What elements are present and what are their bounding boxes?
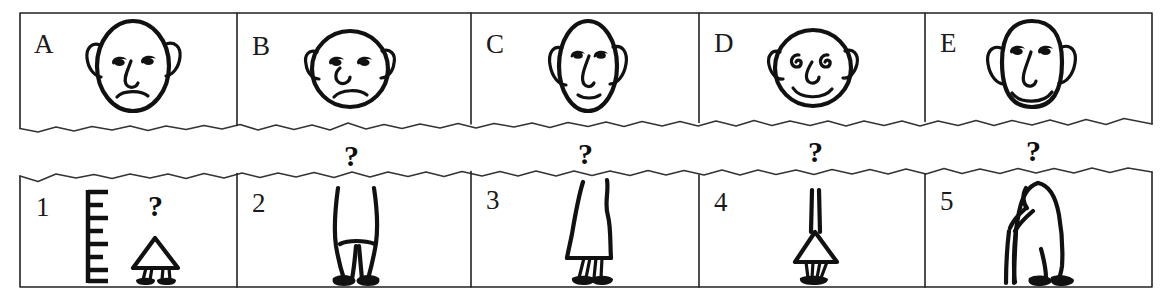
bodies-row-frame (20, 168, 1152, 287)
cell-label-2: 2 (252, 188, 266, 218)
puzzle-figure: A B C D E (0, 0, 1174, 296)
body-5-elderly-with-cane (1006, 183, 1074, 286)
connector-d-qmark: ? (808, 135, 823, 168)
height-ruler (88, 190, 108, 283)
body-1-qmark: ? (148, 189, 163, 222)
cell-label-5: 5 (940, 186, 954, 216)
connector-b-qmark: ? (344, 139, 359, 172)
face-b (306, 31, 395, 107)
cell-label-a: A (34, 29, 54, 59)
body-1-child-in-dress (133, 238, 178, 285)
body-4-child-short-skirt (795, 190, 837, 285)
cell-label-e: E (940, 28, 957, 58)
cell-label-1: 1 (36, 192, 50, 222)
connector-e-qmark: ? (1026, 134, 1041, 167)
cell-label-d: D (714, 28, 734, 58)
cell-label-b: B (252, 31, 270, 61)
body-2-adult-trousers (332, 188, 379, 286)
cell-label-3: 3 (486, 185, 500, 215)
connector-c-qmark: ? (578, 137, 593, 170)
faces-row-frame (20, 13, 1152, 132)
body-3-adult-skirt (567, 180, 613, 285)
face-e (988, 21, 1076, 107)
cell-label-4: 4 (714, 187, 728, 217)
face-c (550, 21, 627, 111)
cell-label-c: C (486, 29, 504, 59)
face-d (769, 30, 858, 106)
face-a (87, 21, 180, 111)
